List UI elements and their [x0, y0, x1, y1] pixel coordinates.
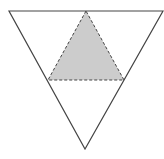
triangle-diagram [0, 0, 164, 159]
diagram-canvas [0, 0, 164, 159]
shaded-inner-triangle [48, 11, 124, 80]
